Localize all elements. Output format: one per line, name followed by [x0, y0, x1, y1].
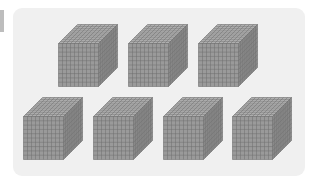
thousand-cube [93, 97, 155, 161]
thousand-cube [232, 97, 294, 161]
side-mark [0, 10, 4, 32]
thousand-cube [58, 24, 120, 88]
thousand-cube [198, 24, 260, 88]
thousand-cube [128, 24, 190, 88]
thousand-cube [163, 97, 225, 161]
thousand-cube [23, 97, 85, 161]
